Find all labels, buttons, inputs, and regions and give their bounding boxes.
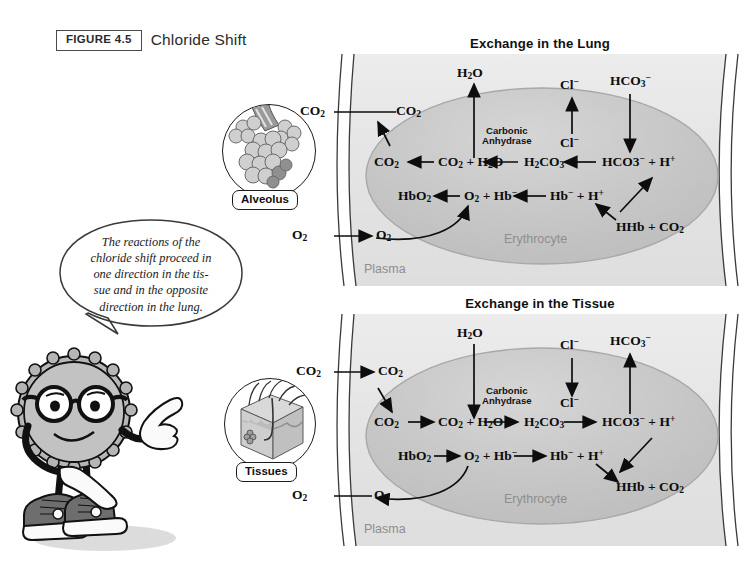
tissue-enzyme-label: Carbonic Anhydrase <box>482 386 532 407</box>
lung-o2-external: O2 <box>292 228 307 243</box>
callout-text: The reactions of the chloride shift proc… <box>72 234 230 315</box>
lung-h2o-released: H2O <box>457 66 483 81</box>
lung-rxn-o2-hb: O2 + Hb− <box>464 189 517 204</box>
tissue-cl-plasma: Cl− <box>560 338 579 352</box>
callout-bubble: The reactions of the chloride shift proc… <box>56 218 246 328</box>
panel-tissue-title: Exchange in the Tissue <box>334 296 746 311</box>
lung-rxn-h2co3: H2CO3 <box>524 155 564 170</box>
tissue-rxn-h2co3: H2CO3 <box>524 415 564 430</box>
lung-enzyme-line-2: Anhydrase <box>482 136 532 146</box>
tissue-cl-membrane: Cl− <box>560 396 579 410</box>
callout-line-5: direction in the lung. <box>72 299 230 315</box>
panel-tissue: Exchange in the Tissue <box>334 296 746 546</box>
tissue-rxn-co2-h2o: CO2 + H2O <box>438 415 503 430</box>
tissue-plasma-label: Plasma <box>364 522 406 536</box>
tissue-rxn-co2: CO2 <box>374 415 399 430</box>
tissue-enzyme-line-2: Anhydrase <box>482 396 532 406</box>
lung-rxn-hhb-co2: HHb + CO2 <box>616 220 684 235</box>
tissue-o2-external: O2 <box>292 488 307 503</box>
tissues-label: Tissues <box>236 462 297 482</box>
tissues-circle <box>224 378 316 470</box>
panel-lung-title: Exchange in the Lung <box>334 36 746 51</box>
alveolus-label: Alveolus <box>232 190 298 210</box>
tissue-rxn-hhb-co2: HHb + CO2 <box>616 480 684 495</box>
figure-page: FIGURE 4.5 Chloride Shift The reactions … <box>0 0 746 567</box>
tissue-rxn-hco3-h: HCO3− + H+ <box>602 415 675 429</box>
lung-cl-plasma: Cl− <box>560 78 579 92</box>
tissue-rxn-o2-hb: O2 + Hb− <box>464 449 517 464</box>
tissue-erythrocyte-label: Erythrocyte <box>504 492 567 506</box>
figure-caption: FIGURE 4.5 Chloride Shift <box>56 30 247 51</box>
lung-enzyme-label: Carbonic Anhydrase <box>482 126 532 147</box>
lung-cl-membrane: Cl− <box>560 136 579 150</box>
callout-line-3: one direction in the tis- <box>72 266 230 282</box>
callout-line-1: The reactions of the <box>72 234 230 250</box>
callout-line-2: chloride shift proceed in <box>72 250 230 266</box>
lung-o2-plasma: O2 <box>376 228 391 243</box>
panel-lung: Exchange in the Lung <box>334 36 746 286</box>
alveolus-inset: Alveolus <box>220 104 320 232</box>
lung-co2-external: CO2 <box>300 104 325 119</box>
tissues-illustration <box>225 379 315 469</box>
lung-rxn-hbo2: HbO2 <box>398 189 431 204</box>
tissue-o2-plasma: O2 <box>374 488 389 503</box>
tissue-co2-external: CO2 <box>296 364 321 379</box>
lung-erythrocyte-label: Erythrocyte <box>504 232 567 246</box>
lung-rxn-hco3-h: HCO3− + H+ <box>602 155 675 169</box>
figure-title: Chloride Shift <box>151 31 247 49</box>
callout-line-4: sue and in the opposite <box>72 282 230 298</box>
lung-rxn-hb-h: Hb− + H+ <box>550 189 604 203</box>
figure-number-badge: FIGURE 4.5 <box>56 30 142 51</box>
mascot-character <box>6 330 196 562</box>
tissue-h2o-consumed: H2O <box>457 326 483 341</box>
tissue-hco3-plasma: HCO3− <box>610 334 651 349</box>
tissue-co2-plasma: CO2 <box>378 364 403 379</box>
lung-hco3-plasma: HCO3− <box>610 74 651 89</box>
tissue-rxn-hb-h: Hb− + H+ <box>550 449 604 463</box>
tissues-inset: Tissues <box>222 378 322 504</box>
tissue-rxn-hbo2: HbO2 <box>398 449 431 464</box>
lung-plasma-label: Plasma <box>364 262 406 276</box>
lung-rxn-co2: CO2 <box>374 155 399 170</box>
lung-rxn-co2-h2o: CO2 + H2O <box>438 155 503 170</box>
mascot-illustration <box>6 330 196 562</box>
lung-co2-plasma: CO2 <box>396 104 421 119</box>
